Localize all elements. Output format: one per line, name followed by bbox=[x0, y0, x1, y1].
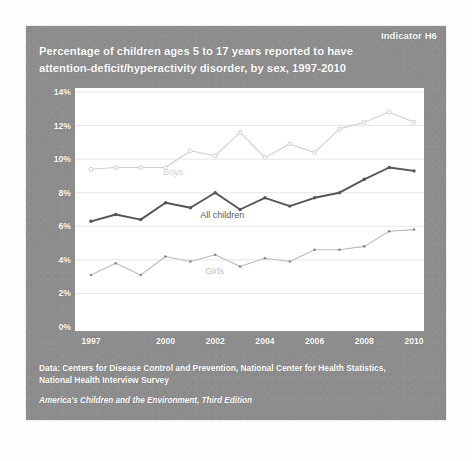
data-point bbox=[139, 218, 142, 221]
x-axis-tick-label: 2010 bbox=[394, 336, 434, 346]
chart-title-line2: attention-deficit/hyperactivity disorder… bbox=[39, 60, 431, 77]
x-axis-tick-label: 2006 bbox=[295, 336, 335, 346]
plot-area-wrapper: 0%2%4%6%8%10%12%14%199720002002200420062… bbox=[75, 88, 424, 331]
data-point bbox=[164, 201, 167, 204]
x-axis-tick-label: 2002 bbox=[195, 336, 235, 346]
publication-name: America's Children and the Environment, … bbox=[39, 395, 434, 408]
data-point bbox=[288, 142, 292, 146]
data-point bbox=[412, 169, 415, 172]
data-point bbox=[362, 120, 366, 124]
data-point bbox=[289, 260, 292, 263]
y-axis-tick-label: 8% bbox=[31, 188, 71, 198]
data-point bbox=[263, 156, 267, 160]
data-point bbox=[338, 191, 341, 194]
y-axis-tick-label: 14% bbox=[31, 87, 71, 97]
x-axis-tick-label: 1997 bbox=[71, 336, 111, 346]
data-point bbox=[214, 191, 217, 194]
data-point bbox=[388, 166, 391, 169]
data-point bbox=[313, 151, 317, 155]
data-source-line2: National Health Interview Survey bbox=[39, 374, 434, 387]
data-point bbox=[363, 245, 366, 248]
series-label-girls: Girls bbox=[205, 266, 224, 276]
y-axis-tick-label: 0% bbox=[31, 322, 71, 332]
line-chart-svg bbox=[75, 88, 424, 331]
data-point bbox=[115, 262, 118, 265]
y-axis-tick-label: 2% bbox=[31, 288, 71, 298]
data-point bbox=[214, 254, 217, 257]
data-point bbox=[114, 166, 118, 170]
series-label-boys: Boys bbox=[163, 167, 183, 177]
series-line-girls bbox=[91, 230, 414, 275]
x-axis-tick-label: 2004 bbox=[245, 336, 285, 346]
x-axis-tick-label: 2000 bbox=[146, 336, 186, 346]
data-point bbox=[264, 257, 267, 260]
series-label-all-children: All children bbox=[200, 210, 244, 220]
indicator-label: Indicator H6 bbox=[381, 30, 437, 41]
data-point bbox=[313, 196, 316, 199]
data-source: Data: Centers for Disease Control and Pr… bbox=[39, 362, 434, 387]
data-point bbox=[338, 127, 342, 131]
plot-canvas bbox=[75, 88, 424, 331]
data-point bbox=[164, 255, 167, 258]
data-point bbox=[338, 249, 341, 252]
data-point bbox=[288, 204, 291, 207]
data-point bbox=[413, 228, 416, 231]
data-point bbox=[387, 110, 391, 114]
y-axis-tick-label: 10% bbox=[31, 154, 71, 164]
data-point bbox=[89, 167, 93, 171]
chart-figure-panel: Indicator H6 Percentage of children ages… bbox=[26, 26, 446, 420]
data-point bbox=[412, 120, 416, 124]
data-point bbox=[139, 166, 143, 170]
data-point bbox=[89, 220, 92, 223]
data-point bbox=[263, 196, 266, 199]
data-point bbox=[388, 230, 391, 233]
chart-footer: Data: Centers for Disease Control and Pr… bbox=[39, 362, 434, 408]
data-point bbox=[189, 260, 192, 263]
data-point bbox=[90, 274, 93, 277]
data-point bbox=[313, 249, 316, 252]
data-point bbox=[114, 213, 117, 216]
data-source-line1: Data: Centers for Disease Control and Pr… bbox=[39, 362, 434, 375]
series-line-all-children bbox=[91, 168, 414, 222]
data-point bbox=[139, 274, 142, 277]
x-axis-tick-label: 2008 bbox=[344, 336, 384, 346]
data-point bbox=[239, 265, 242, 268]
chart-title: Percentage of children ages 5 to 17 year… bbox=[39, 43, 431, 76]
data-point bbox=[238, 130, 242, 134]
y-axis-tick-label: 6% bbox=[31, 221, 71, 231]
y-axis-tick-label: 4% bbox=[31, 255, 71, 265]
screenshot-page: Indicator H6 Percentage of children ages… bbox=[0, 0, 472, 461]
data-point bbox=[189, 149, 193, 153]
data-point bbox=[213, 154, 217, 158]
y-axis-tick-label: 12% bbox=[31, 121, 71, 131]
data-point bbox=[189, 206, 192, 209]
data-point bbox=[363, 178, 366, 181]
chart-title-line1: Percentage of children ages 5 to 17 year… bbox=[39, 43, 431, 60]
